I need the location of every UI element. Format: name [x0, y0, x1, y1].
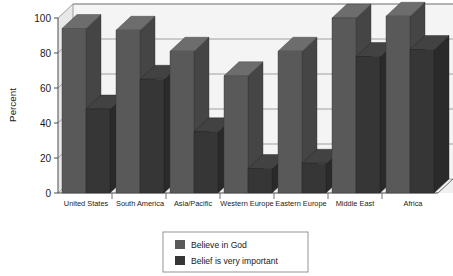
y-tick-label-60: 60	[40, 83, 52, 94]
category-label-eastern-europe: Eastern Europe	[275, 199, 326, 208]
category-label-asia-pacific: Asia/Pacific	[174, 199, 213, 208]
y-tick-label-0: 0	[45, 188, 51, 199]
x-axis-category-labels: United States South America Asia/Pacific…	[64, 199, 424, 208]
y-axis-title: Percent	[7, 88, 18, 122]
legend-swatch-belief-very-important	[175, 256, 185, 265]
legend-item-belief-very-important[interactable]: Belief is very important	[175, 256, 279, 266]
bar-belief-very-important-africa	[410, 36, 449, 194]
legend: Believe in God Belief is very important	[163, 232, 308, 272]
y-axis: 100 80 60 40 20 0	[34, 13, 58, 199]
category-label-united-states: United States	[64, 199, 109, 208]
chart-canvas: 100 80 60 40 20 0 Percent	[0, 0, 453, 276]
legend-label-belief-very-important: Belief is very important	[191, 256, 279, 266]
category-label-africa: Africa	[404, 199, 424, 208]
legend-swatch-believe-in-god	[175, 240, 185, 249]
y-tick-label-80: 80	[40, 48, 52, 59]
y-tick-label-20: 20	[40, 153, 52, 164]
legend-box	[163, 232, 308, 272]
y-tick-label-40: 40	[40, 118, 52, 129]
category-label-middle-east: Middle East	[336, 199, 375, 208]
category-label-western-europe: Western Europe	[220, 199, 273, 208]
y-tick-label-100: 100	[34, 13, 51, 24]
bar-chart: 100 80 60 40 20 0 Percent	[0, 0, 453, 276]
legend-label-believe-in-god: Believe in God	[191, 240, 247, 250]
category-label-south-america: South America	[116, 199, 165, 208]
